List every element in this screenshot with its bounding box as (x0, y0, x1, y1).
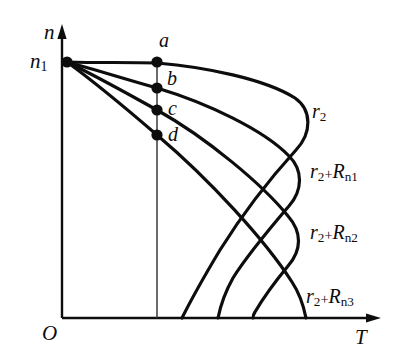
curve-rn1-add: R (333, 160, 345, 182)
curve-r2-base-sub: 2 (320, 109, 327, 124)
curve-rn3-base: r (306, 285, 314, 307)
x-axis-label: T (355, 327, 367, 348)
horizontal-axis-arrowhead (366, 313, 381, 322)
characteristic-curves-group (67, 62, 308, 318)
y-axis-label: n (44, 22, 55, 43)
marker-c (151, 104, 162, 115)
marker-b (151, 82, 162, 93)
curve-r2 (67, 62, 308, 318)
curve-label-r2: r2 (312, 101, 326, 123)
curve-rn2-op: + (324, 227, 332, 243)
marker-d (151, 129, 162, 140)
curve-rn2-base: r (310, 221, 318, 243)
curve-rn2-add: R (333, 221, 345, 243)
n1-label: n1 (30, 51, 47, 74)
curve-rn3-add-sub: n3 (341, 294, 354, 309)
curve-label-r2-rn1: r2+Rn1 (310, 161, 358, 183)
marker-a (151, 56, 162, 67)
n1-subscript: 1 (41, 59, 48, 74)
point-d-label: d (168, 124, 178, 144)
point-b-label: b (167, 68, 177, 88)
curve-rn1-base: r (310, 160, 318, 182)
n1-base: n (30, 49, 41, 73)
curve-rn1-op: + (324, 166, 332, 182)
curve-r2-base: r (312, 100, 320, 122)
curve-rn3-add: R (329, 285, 341, 307)
curve-rn2-add-sub: n2 (345, 230, 358, 245)
curve-r2-rn3 (67, 62, 306, 318)
vertical-axis-arrowhead (57, 24, 66, 39)
curve-label-r2-rn2: r2+Rn2 (310, 222, 358, 244)
point-a-label: a (159, 30, 169, 50)
curve-rn1-add-sub: n1 (345, 169, 358, 184)
marker-n1 (61, 56, 72, 67)
point-c-label: c (168, 98, 177, 118)
speed-torque-characteristic-figure: n T O n1 a b c d r2 r2+Rn1 r2+Rn2 r2+Rn3 (0, 0, 394, 362)
curve-r2-rn2 (67, 62, 299, 318)
curve-label-r2-rn3: r2+Rn3 (306, 286, 354, 308)
curve-rn3-op: + (320, 291, 328, 307)
origin-label: O (42, 323, 57, 344)
